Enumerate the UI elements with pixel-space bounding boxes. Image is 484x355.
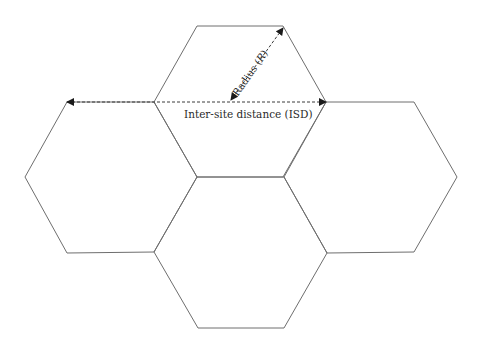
- hex-cell-diagram: Radius (R) Inter-site distance (ISD): [0, 0, 484, 355]
- hex-cell-left: [25, 102, 197, 253]
- radius-label: Radius (R): [230, 48, 270, 98]
- isd-label: Inter-site distance (ISD): [184, 108, 313, 120]
- hex-cell-right: [284, 102, 457, 253]
- hex-cell-bottom: [154, 177, 327, 328]
